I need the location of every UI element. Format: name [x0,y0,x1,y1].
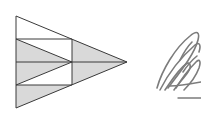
diagram-canvas [0,0,201,128]
